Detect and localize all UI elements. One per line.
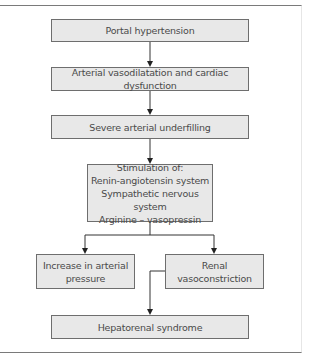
node-label: Hepatorenal syndrome bbox=[98, 321, 203, 334]
node-label: vasoconstriction bbox=[177, 272, 252, 285]
node-stimulation: Stimulation of: Renin-angiotensin system… bbox=[87, 164, 213, 222]
node-label: Sympathetic nervous system bbox=[88, 187, 212, 213]
node-hepatorenal-syndrome: Hepatorenal syndrome bbox=[51, 315, 249, 339]
node-label: Arginine – vasopressin bbox=[99, 213, 201, 226]
node-label: Renal bbox=[202, 259, 228, 272]
node-label: Arterial vasodilatation and cardiac dysf… bbox=[52, 66, 248, 92]
node-label: Increase in arterial bbox=[43, 259, 128, 272]
node-label: pressure bbox=[66, 272, 105, 285]
node-label: Severe arterial underfilling bbox=[89, 121, 210, 134]
node-arterial-vasodilatation: Arterial vasodilatation and cardiac dysf… bbox=[51, 67, 249, 91]
node-label: Stimulation of: bbox=[117, 161, 183, 174]
node-arterial-underfilling: Severe arterial underfilling bbox=[51, 115, 249, 139]
node-label: Portal hypertension bbox=[106, 24, 195, 37]
node-increase-arterial-pressure: Increase in arterial pressure bbox=[36, 254, 135, 289]
node-portal-hypertension: Portal hypertension bbox=[51, 19, 249, 42]
node-renal-vasoconstriction: Renal vasoconstriction bbox=[165, 254, 264, 289]
node-label: Renin-angiotensin system bbox=[91, 174, 209, 187]
